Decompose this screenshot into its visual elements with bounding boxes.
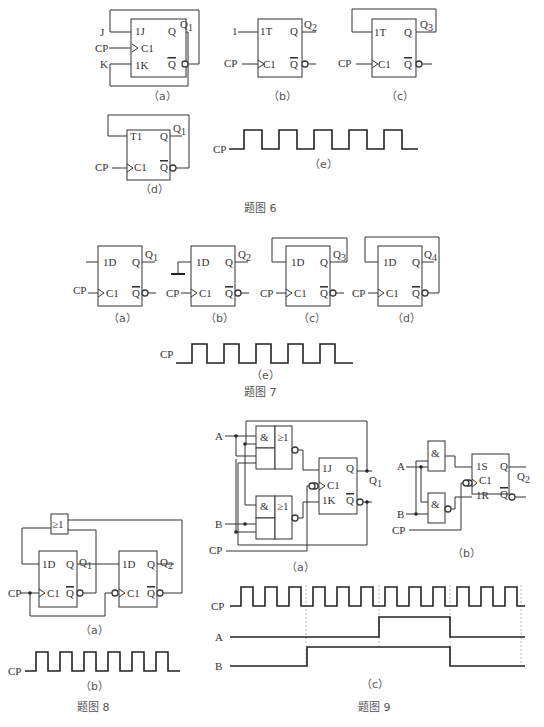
svg-text:CP: CP [392, 524, 405, 536]
svg-text:B: B [215, 518, 222, 530]
svg-text:（b）: （b） [205, 312, 234, 325]
fig6-a-jk-flipflop: 1J C1 1K Q Q J CP K Q1 （a） [95, 10, 199, 103]
svg-text:（e）: （e） [309, 158, 338, 171]
svg-text:C1: C1 [141, 42, 154, 54]
svg-text:&: & [431, 498, 440, 510]
svg-text:Q2: Q2 [160, 556, 173, 571]
svg-text:≥1: ≥1 [277, 431, 289, 443]
svg-text:1D: 1D [196, 256, 210, 268]
svg-text:1D: 1D [103, 256, 117, 268]
svg-text:CP: CP [8, 587, 21, 599]
exercise-figures: 1J C1 1K Q Q J CP K Q1 （a） 1T C1 Q Q 1 C… [0, 0, 544, 727]
fig6-e-cp-waveform: CP （e） [213, 130, 418, 171]
svg-text:CP: CP [213, 143, 226, 155]
svg-text:Q: Q [66, 587, 74, 599]
svg-text:CP: CP [211, 600, 224, 612]
svg-text:Q3: Q3 [333, 248, 346, 263]
svg-text:K: K [100, 58, 108, 70]
svg-text:（a）: （a） [108, 312, 137, 325]
svg-text:1K: 1K [322, 494, 336, 506]
svg-text:（a）: （a） [148, 90, 177, 103]
svg-text:CP: CP [8, 665, 21, 677]
svg-text:CP: CP [166, 287, 179, 299]
svg-text:1T: 1T [374, 26, 387, 38]
svg-text:1: 1 [232, 25, 238, 37]
svg-text:Q: Q [320, 287, 328, 299]
svg-text:Q: Q [160, 130, 168, 142]
svg-text:CP: CP [224, 57, 237, 69]
svg-text:Q: Q [225, 256, 233, 268]
svg-text:1K: 1K [135, 59, 149, 71]
svg-text:CP: CP [160, 348, 173, 360]
fig6-b-t-flipflop: 1T C1 Q Q 1 CP Q2 （b） [224, 18, 317, 103]
svg-text:（d）: （d） [392, 312, 421, 325]
svg-text:A: A [215, 631, 223, 643]
svg-text:CP: CP [338, 57, 351, 69]
svg-text:Q: Q [500, 460, 508, 472]
svg-text:C1: C1 [106, 287, 119, 299]
svg-text:C1: C1 [263, 58, 276, 70]
fig8-caption: 题图 8 [77, 701, 110, 714]
fig7-b-d-flipflop: 1D C1 Q Q CP Q2 （b） [166, 246, 251, 325]
fig9-c-timing-diagram: CP A B （c） [211, 585, 525, 691]
svg-text:≥1: ≥1 [52, 518, 64, 530]
svg-text:Q: Q [346, 462, 354, 474]
svg-text:Q1: Q1 [173, 122, 186, 137]
svg-text:Q1: Q1 [145, 248, 158, 263]
svg-text:Q2: Q2 [517, 470, 530, 485]
fig8-b-cp-waveform: CP （b） [8, 652, 180, 693]
svg-text:（b）: （b） [80, 680, 109, 693]
svg-text:C1: C1 [199, 287, 212, 299]
svg-text:Q: Q [290, 58, 298, 70]
svg-text:CP: CP [73, 284, 86, 296]
fig7-d-d-flipflop: 1D C1 Q Q CP Q4 （d） [352, 237, 439, 325]
svg-text:C1: C1 [47, 587, 60, 599]
svg-text:（a）: （a） [286, 561, 315, 574]
svg-text:C1: C1 [127, 587, 140, 599]
svg-text:Q: Q [346, 494, 354, 506]
svg-text:C1: C1 [294, 287, 307, 299]
svg-text:1D: 1D [122, 558, 136, 570]
svg-text:&: & [431, 447, 440, 459]
svg-text:1J: 1J [322, 462, 333, 474]
svg-text:Q: Q [404, 26, 412, 38]
fig7-e-cp-waveform: CP （e） [160, 344, 353, 382]
svg-text:Q4: Q4 [424, 248, 437, 263]
svg-text:CP: CP [209, 544, 222, 556]
svg-text:A: A [397, 460, 405, 472]
svg-text:1T: 1T [260, 25, 273, 37]
svg-text:C1: C1 [386, 287, 399, 299]
svg-text:Q: Q [412, 287, 420, 299]
svg-text:（a）: （a） [80, 624, 109, 637]
fig7-caption: 题图 7 [244, 386, 277, 399]
svg-text:Q2: Q2 [304, 18, 317, 33]
svg-text:Q: Q [412, 256, 420, 268]
svg-text:&: & [260, 500, 269, 512]
svg-text:Q: Q [147, 558, 155, 570]
svg-text:1D: 1D [383, 256, 397, 268]
svg-text:T1: T1 [130, 130, 142, 142]
svg-text:CP: CP [95, 42, 108, 54]
svg-text:B: B [215, 660, 222, 672]
svg-text:Q: Q [404, 58, 412, 70]
svg-text:Q: Q [225, 287, 233, 299]
svg-text:CP: CP [352, 287, 365, 299]
svg-text:C1: C1 [134, 161, 147, 173]
svg-text:C1: C1 [327, 479, 340, 491]
svg-text:CP: CP [260, 287, 273, 299]
svg-text:&: & [260, 431, 269, 443]
fig7-a-d-flipflop: 1D C1 Q Q CP Q1 （a） [73, 246, 158, 325]
fig7-c-d-flipflop: 1D C1 Q Q CP Q3 （c） [260, 238, 347, 325]
fig9-b-circuit: & & 1S C1 1R Q Q A B CP Q2 （b） [392, 441, 530, 560]
svg-text:1J: 1J [135, 25, 146, 37]
fig6-caption: 题图 6 [244, 202, 277, 215]
svg-text:≥1: ≥1 [277, 500, 289, 512]
svg-text:1D: 1D [291, 256, 305, 268]
svg-text:Q3: Q3 [420, 18, 433, 33]
svg-text:1R: 1R [476, 489, 490, 501]
svg-text:Q: Q [168, 58, 176, 70]
svg-text:Q: Q [160, 161, 168, 173]
svg-text:Q: Q [168, 25, 176, 37]
svg-text:Q: Q [66, 558, 74, 570]
svg-text:J: J [100, 26, 105, 38]
